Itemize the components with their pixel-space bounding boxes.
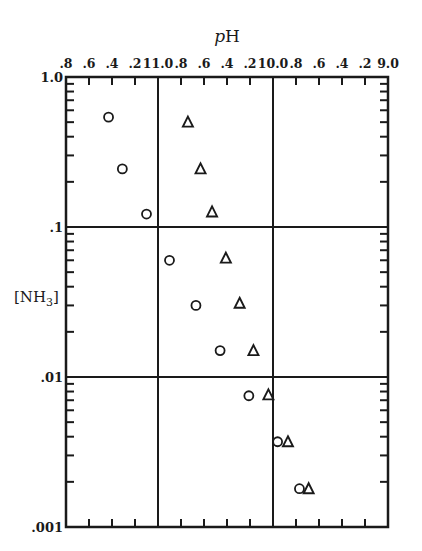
data-point-triangle bbox=[235, 298, 245, 308]
plot-frame bbox=[66, 77, 388, 527]
data-point-triangle bbox=[183, 117, 193, 127]
data-point-triangle bbox=[196, 163, 206, 173]
svg-text:[NH3]: [NH3] bbox=[14, 288, 59, 309]
data-point-triangle bbox=[248, 345, 258, 355]
data-point-circle bbox=[191, 301, 200, 310]
grid-lines bbox=[66, 77, 388, 527]
y-tick-label: .001 bbox=[31, 520, 63, 535]
data-point-triangle bbox=[207, 206, 217, 216]
x-tick-label: 11.0 bbox=[143, 56, 174, 71]
data-point-circle bbox=[142, 210, 151, 219]
y-tick-label: 1.0 bbox=[40, 70, 63, 85]
x-tick-label: 9.0 bbox=[377, 56, 399, 71]
x-tick-label: 10.0 bbox=[258, 56, 289, 71]
data-point-triangle bbox=[283, 436, 293, 446]
x-tick-labels: .8.6.4.211.0.8.6.4.210.0.8.6.4.29.0 bbox=[59, 56, 399, 71]
y-tick-label: .01 bbox=[40, 370, 63, 385]
y-axis-title-close: ] bbox=[53, 288, 59, 306]
x-tick-label: .6 bbox=[312, 56, 325, 71]
x-tick-label: .6 bbox=[197, 56, 210, 71]
x-tick-label: .8 bbox=[174, 56, 187, 71]
x-tick-label: .6 bbox=[82, 56, 95, 71]
x-tick-label: .4 bbox=[220, 56, 233, 71]
x-tick-label: .2 bbox=[243, 56, 256, 71]
data-point-circle bbox=[118, 164, 127, 173]
x-tick-label: .2 bbox=[358, 56, 371, 71]
x-tick-label: .8 bbox=[289, 56, 302, 71]
y-axis-title-sub: 3 bbox=[46, 296, 53, 309]
chart: pH [NH3] .8.6.4.211.0.8.6.4.210.0.8.6.4.… bbox=[0, 0, 422, 551]
x-tick-label: .4 bbox=[335, 56, 348, 71]
data-point-triangle bbox=[304, 483, 314, 493]
data-point-circle bbox=[273, 437, 282, 446]
x-tick-label: .4 bbox=[105, 56, 118, 71]
svg-text:pH: pH bbox=[214, 26, 240, 46]
y-axis-title: [NH3] bbox=[14, 288, 59, 309]
x-tick-label: .2 bbox=[128, 56, 141, 71]
y-tick-label: .1 bbox=[49, 220, 63, 235]
data-point-circle bbox=[104, 113, 113, 122]
ticks bbox=[66, 77, 388, 527]
x-axis-title-italic: p bbox=[214, 26, 225, 46]
x-axis-title-rest: H bbox=[225, 26, 240, 46]
data-point-circle bbox=[295, 484, 304, 493]
data-points bbox=[104, 113, 314, 494]
data-point-circle bbox=[216, 346, 225, 355]
y-axis-title-text: [NH bbox=[14, 288, 46, 306]
data-point-triangle bbox=[263, 389, 273, 399]
x-tick-label: .8 bbox=[59, 56, 72, 71]
data-point-triangle bbox=[221, 253, 231, 263]
data-point-circle bbox=[244, 391, 253, 400]
x-axis-title: pH bbox=[214, 26, 240, 46]
data-point-circle bbox=[165, 256, 174, 265]
